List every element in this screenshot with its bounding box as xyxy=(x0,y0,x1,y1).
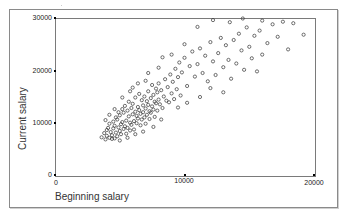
data-point xyxy=(126,126,129,129)
data-point xyxy=(152,93,155,96)
data-point xyxy=(117,111,120,114)
data-point xyxy=(228,21,231,24)
data-point xyxy=(144,107,147,110)
data-point xyxy=(214,73,217,76)
data-point xyxy=(162,95,165,98)
data-point xyxy=(131,102,134,105)
data-point xyxy=(222,91,225,94)
data-point xyxy=(180,71,183,74)
data-point xyxy=(160,118,163,121)
data-point xyxy=(178,61,181,64)
data-point xyxy=(151,83,154,86)
data-point xyxy=(287,48,290,51)
data-point xyxy=(173,98,176,101)
data-point xyxy=(219,36,222,39)
data-point xyxy=(253,34,256,37)
data-point xyxy=(169,73,172,76)
data-point xyxy=(211,19,214,22)
data-point xyxy=(121,108,124,111)
data-point xyxy=(127,115,130,118)
data-point xyxy=(129,90,132,93)
data-point xyxy=(112,120,115,123)
data-point xyxy=(183,56,186,59)
data-point xyxy=(271,23,274,26)
data-point xyxy=(161,106,164,109)
data-point xyxy=(167,101,170,104)
data-point xyxy=(281,20,284,23)
data-point xyxy=(104,138,107,141)
data-point xyxy=(198,95,201,98)
data-point xyxy=(170,92,173,95)
data-point xyxy=(139,124,142,127)
data-point xyxy=(160,89,163,92)
data-point xyxy=(211,60,214,63)
data-point xyxy=(209,87,212,90)
data-point xyxy=(193,75,196,78)
data-point xyxy=(245,26,248,29)
data-point xyxy=(116,135,119,138)
data-point xyxy=(157,66,160,69)
data-point xyxy=(130,106,133,109)
data-point xyxy=(134,133,137,136)
data-point xyxy=(103,132,106,135)
data-point xyxy=(147,90,150,93)
data-point xyxy=(170,53,173,56)
data-point xyxy=(132,128,135,131)
data-point xyxy=(121,96,124,99)
data-point xyxy=(142,104,145,107)
data-point xyxy=(156,109,159,112)
data-point xyxy=(164,78,167,81)
data-point xyxy=(196,63,199,66)
data-point xyxy=(125,119,128,122)
data-point xyxy=(292,22,295,25)
data-point xyxy=(152,108,155,111)
data-point xyxy=(113,108,116,111)
data-point xyxy=(138,109,141,112)
data-point xyxy=(176,106,179,109)
data-point xyxy=(118,139,121,142)
data-point xyxy=(117,126,120,129)
data-point xyxy=(100,136,103,139)
data-point xyxy=(151,105,154,108)
data-point xyxy=(125,132,128,135)
data-point xyxy=(186,84,189,87)
data-point xyxy=(227,58,230,61)
data-point xyxy=(302,33,305,36)
data-point xyxy=(250,57,253,60)
data-point xyxy=(175,88,178,91)
data-point xyxy=(224,44,227,47)
data-point xyxy=(147,71,150,74)
data-point xyxy=(104,119,107,122)
data-point xyxy=(149,97,152,100)
data-point xyxy=(153,115,156,118)
data-point xyxy=(240,49,243,52)
data-point xyxy=(266,42,269,45)
data-point xyxy=(204,54,207,57)
data-point xyxy=(174,67,177,70)
data-point xyxy=(230,77,233,80)
data-point xyxy=(119,133,122,136)
data-point xyxy=(129,129,132,132)
data-point xyxy=(235,62,238,65)
data-point xyxy=(161,56,164,59)
data-point xyxy=(201,71,204,74)
data-point xyxy=(156,91,159,94)
data-point xyxy=(134,110,137,113)
data-point xyxy=(147,103,150,106)
data-point xyxy=(157,98,160,101)
data-point xyxy=(113,124,116,127)
data-point xyxy=(136,82,139,85)
data-point xyxy=(131,113,134,116)
data-point xyxy=(145,113,148,116)
data-point xyxy=(198,47,201,50)
data-point xyxy=(217,52,220,55)
data-point xyxy=(127,100,130,103)
data-point xyxy=(108,113,111,116)
data-point xyxy=(196,25,199,28)
data-point xyxy=(136,117,139,120)
data-point xyxy=(152,125,155,128)
data-point xyxy=(118,114,121,117)
data-point xyxy=(122,111,125,114)
data-point xyxy=(188,65,191,68)
data-point xyxy=(136,105,139,108)
